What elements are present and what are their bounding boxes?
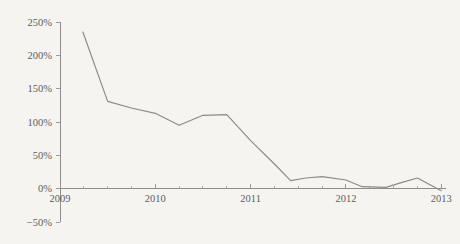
y-tick-label: 100%	[28, 117, 53, 128]
x-tick-label: 2011	[240, 193, 261, 204]
y-tick-label: 50%	[33, 150, 53, 161]
y-tick-label: 250%	[28, 17, 53, 28]
y-tick-label: 200%	[28, 50, 53, 61]
x-tick-label: 2013	[431, 193, 452, 204]
series-line-growth-rate	[83, 32, 441, 191]
x-tick-label: 2010	[145, 193, 166, 204]
data-series-group	[83, 32, 441, 191]
x-axis: 20092010201120122013	[50, 184, 452, 205]
y-axis-label-group: 250%200%150%100%50%0%−50%	[27, 17, 52, 228]
line-chart-figure: 250%200%150%100%50%0%−50% 20092010201120…	[0, 0, 460, 244]
chart-canvas: 250%200%150%100%50%0%−50% 20092010201120…	[0, 0, 460, 244]
x-axis-label-group: 20092010201120122013	[50, 193, 452, 204]
y-tick-label: −50%	[27, 217, 52, 228]
y-axis-tick-group	[56, 22, 60, 222]
x-tick-label: 2012	[335, 193, 356, 204]
y-tick-label: 150%	[28, 83, 53, 94]
x-tick-label: 2009	[50, 193, 71, 204]
